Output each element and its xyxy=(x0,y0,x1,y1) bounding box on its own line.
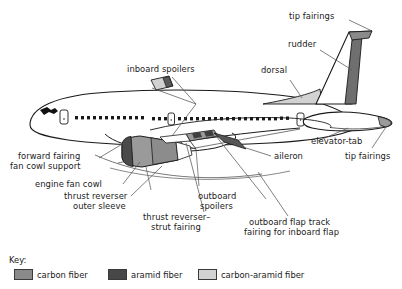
door-mid xyxy=(168,113,175,125)
key-item-carbon-fiber: carbon fiber xyxy=(14,269,88,280)
key-swatch-aramid-fiber xyxy=(108,269,127,280)
key-heading: Key: xyxy=(9,255,26,265)
label-rudder: rudder xyxy=(288,40,316,50)
key-label-carbon-fiber: carbon fiber xyxy=(37,270,88,280)
label-dorsal: dorsal xyxy=(261,66,287,76)
vertical-stabilizer xyxy=(316,31,372,104)
label-inboard-spoilers: inboard spoilers xyxy=(127,65,195,75)
label-aileron: aileron xyxy=(274,152,303,162)
label-thrust-reverser-line2: outer sleeve xyxy=(73,202,126,212)
flap-track-line-2 xyxy=(196,149,199,186)
flap-track-line-1 xyxy=(146,167,151,190)
key-label-aramid-fiber: aramid fiber xyxy=(131,270,182,280)
label-engine-fan-cowl: engine fan cowl xyxy=(35,180,102,190)
door-forward xyxy=(60,110,68,124)
key-item-carbon-aramid-fiber: carbon-aramid fiber xyxy=(198,269,304,280)
label-thrust-strut-line2: strut fairing xyxy=(151,223,201,233)
diagram-canvas: tip fairings rudder dorsal inboard spoil… xyxy=(0,0,402,289)
label-outboard-flap-line2: fairing for inboard flap xyxy=(244,228,339,238)
fin-tip-fairing xyxy=(349,31,372,40)
key-label-carbon-aramid-fiber: carbon-aramid fiber xyxy=(221,270,304,280)
label-outboard-spoilers-line2: spoilers xyxy=(200,202,233,212)
label-tip-fairings-right: tip fairings xyxy=(345,152,390,162)
key-item-aramid-fiber: aramid fiber xyxy=(108,269,182,280)
label-tip-fairings-top: tip fairings xyxy=(289,12,334,22)
key-swatch-carbon-aramid-fiber xyxy=(198,269,217,280)
label-elevator-tab: elevator-tab xyxy=(311,137,362,147)
fan-cowl-inlet-lip xyxy=(122,137,133,167)
key-swatch-carbon-fiber xyxy=(14,269,33,280)
label-forward-fairing-line2: fan cowl support xyxy=(10,162,81,172)
